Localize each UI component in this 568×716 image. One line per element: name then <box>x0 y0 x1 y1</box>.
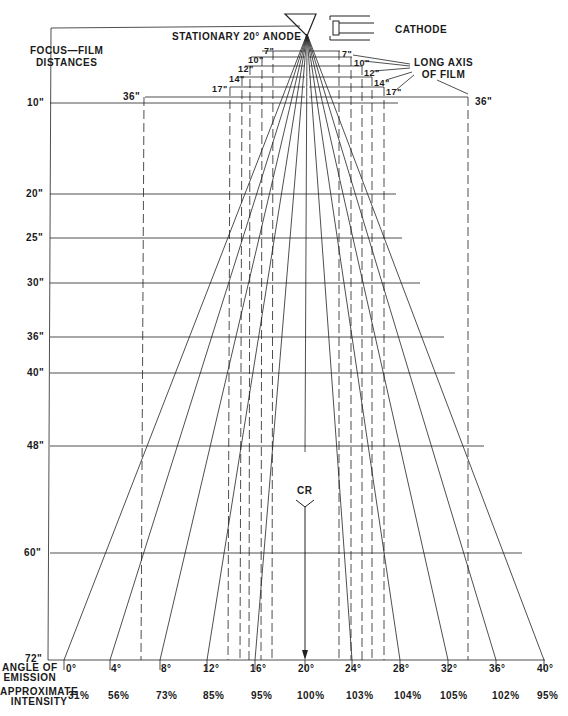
cathode-icon <box>330 16 374 40</box>
intensity-0: 31% <box>68 690 90 701</box>
angle-24: 24° <box>345 663 362 674</box>
angle-28: 28° <box>393 663 410 674</box>
film-right-17: 17" <box>386 87 402 97</box>
focus-film-line1: FOCUS—FILM <box>30 46 103 56</box>
film-right-10: 10" <box>354 58 370 68</box>
distance-25: 25" <box>26 232 43 243</box>
central-ray-arrow-icon <box>296 500 314 654</box>
angle-36: 36° <box>489 663 506 674</box>
intensity-label-line2: INTENSITY <box>0 697 78 707</box>
intensity-24: 103% <box>346 690 374 701</box>
angle-32: 32° <box>441 663 458 674</box>
intensity-32: 105% <box>440 690 468 701</box>
film-right-12: 12" <box>364 68 380 78</box>
cathode-label: CATHODE <box>395 24 447 35</box>
angle-8: 8° <box>161 663 172 674</box>
intensity-20: 100% <box>297 690 325 701</box>
film-left-14: 14" <box>229 74 245 84</box>
intensity-4: 56% <box>108 690 130 701</box>
intensity-12: 85% <box>203 690 225 701</box>
long-axis-label: LONG AXIS OF FILM <box>414 58 473 80</box>
distance-30: 30" <box>27 277 44 288</box>
film-left-12: 12" <box>238 64 254 74</box>
focus-film-label: FOCUS—FILM DISTANCES <box>30 46 103 68</box>
intensity-label: APPROXIMATE INTENSITY <box>0 687 78 707</box>
angle-4: 4° <box>111 663 122 674</box>
distance-20: 20" <box>26 188 43 199</box>
focus-film-line2: DISTANCES <box>30 58 103 68</box>
angle-0: 0° <box>66 663 77 674</box>
film-left-17: 17" <box>212 84 228 94</box>
long-axis-line1: LONG AXIS <box>414 58 473 68</box>
distance-36: 36" <box>27 331 44 342</box>
film-right-36: 36" <box>475 96 492 107</box>
distance-48: 48" <box>27 440 44 451</box>
intensity-40: 95% <box>537 690 559 701</box>
emission-rays <box>64 34 544 660</box>
intensity-28: 104% <box>394 690 422 701</box>
distance-10: 10" <box>27 97 44 108</box>
angle-40: 40° <box>537 663 554 674</box>
film-right-7: 7" <box>342 49 352 59</box>
distance-60: 60" <box>24 547 41 558</box>
film-left-7: 7" <box>264 46 274 56</box>
anode-label: STATIONARY 20° ANODE <box>172 31 301 42</box>
angle-12: 12° <box>203 663 220 674</box>
beam-diagram <box>0 0 568 716</box>
angle-of-emission-label: ANGLE OF EMISSION <box>2 663 58 683</box>
angle-16: 16° <box>250 663 267 674</box>
long-axis-line2: OF FILM <box>414 70 473 80</box>
angle-label-line2: EMISSION <box>2 673 58 683</box>
intensity-16: 95% <box>251 690 273 701</box>
distance-40: 40" <box>27 367 44 378</box>
film-left-36: 36" <box>123 91 140 102</box>
angle-20: 20° <box>298 663 315 674</box>
intensity-36: 102% <box>492 690 520 701</box>
central-ray-label: CR <box>297 485 312 496</box>
intensity-8: 73% <box>156 690 178 701</box>
